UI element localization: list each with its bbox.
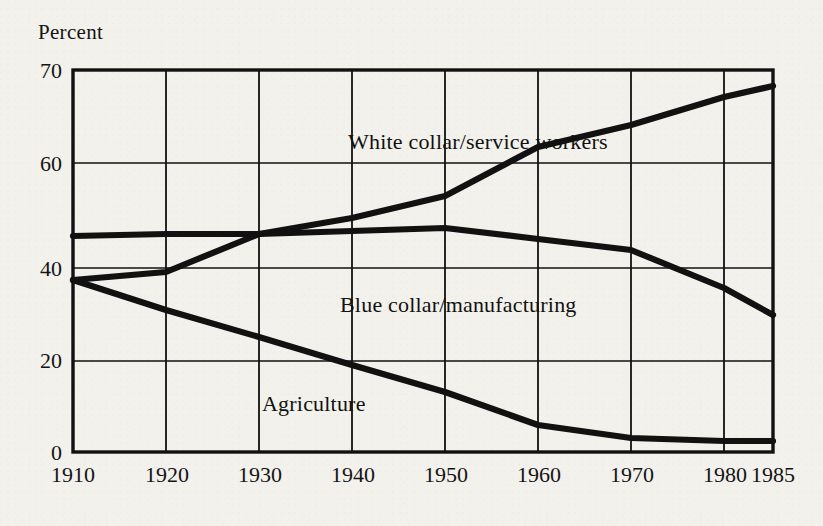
plot-frame	[73, 70, 773, 452]
series-line-white-collar	[73, 86, 773, 280]
chart-figure: Percent 70 60 40 20 0 1910 1920 1930 194…	[0, 0, 823, 526]
series-label-blue-collar: Blue collar/manufacturing	[340, 292, 577, 318]
series-label-white-collar: White collar/service workers	[348, 129, 608, 155]
plot-area	[0, 0, 823, 526]
series-label-agriculture: Agriculture	[262, 391, 366, 417]
